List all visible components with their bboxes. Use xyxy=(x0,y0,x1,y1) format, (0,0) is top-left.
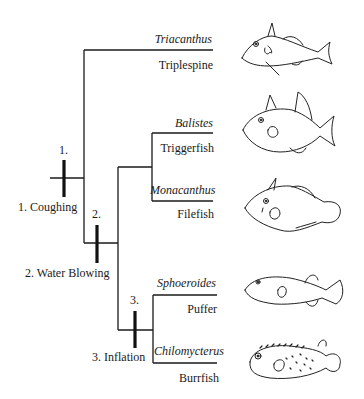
common-label-triplespine: Triplespine xyxy=(150,58,213,72)
burrfish-icon xyxy=(250,340,340,379)
triggerfish-icon xyxy=(243,92,335,153)
genus-label-monacanthus: Monacanthus xyxy=(150,183,214,197)
genus-label-sphoeroides: Sphoeroides xyxy=(150,276,216,290)
triplespine-fish-icon xyxy=(242,23,332,75)
filefish-icon xyxy=(245,178,340,231)
genus-label-balistes: Balistes xyxy=(150,116,213,130)
genus-label-triacanthus: Triacanthus xyxy=(150,32,212,46)
character-2-number: 2. xyxy=(92,207,101,221)
character-1-number: 1. xyxy=(59,143,68,157)
common-label-filefish: Filefish xyxy=(150,207,214,221)
puffer-fish-icon xyxy=(245,275,343,306)
common-label-triggerfish: Triggerfish xyxy=(150,141,214,155)
character-3-number: 3. xyxy=(130,293,139,307)
character-3-label: 3. Inflation xyxy=(92,350,145,364)
common-label-burrfish: Burrfish xyxy=(150,371,219,385)
genus-label-chilomycterus: Chilomycterus xyxy=(154,344,224,358)
character-2-label: 2. Water Blowing xyxy=(25,266,109,280)
character-1-label: 1. Coughing xyxy=(18,200,77,214)
common-label-puffer: Puffer xyxy=(150,302,217,316)
